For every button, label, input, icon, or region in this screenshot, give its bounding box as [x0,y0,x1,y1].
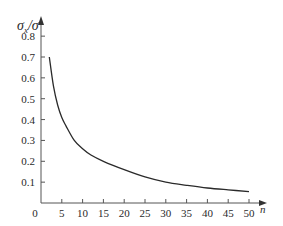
y-tick-label: 0.1 [21,176,35,188]
y-axis-label-rest: /σ [27,18,40,33]
x-tick-label: 5 [59,207,65,219]
data-series-line [49,57,249,192]
x-axis-ticks: 05101520253035404550 [32,199,255,219]
y-tick-label: 0.2 [21,155,35,167]
x-tick-label: 0 [32,207,38,219]
y-tick-label: 0.6 [21,72,35,84]
x-tick-label: 15 [98,207,110,219]
x-axis-label: n [260,203,266,215]
chart: 05101520253035404550 0.10.20.30.40.50.60… [0,0,283,226]
x-tick-label: 35 [181,207,193,219]
x-tick-label: 40 [202,207,214,219]
y-tick-label: 0.5 [21,93,35,105]
y-tick-label: 0.4 [21,114,35,126]
axes [38,16,267,206]
x-tick-label: 10 [77,207,89,219]
x-tick-label: 45 [223,207,235,219]
x-tick-label: 30 [160,207,172,219]
x-tick-label: 50 [244,207,256,219]
y-axis-arrow-icon [38,16,44,25]
x-tick-label: 25 [140,207,152,219]
x-tick-label: 20 [119,207,131,219]
y-tick-label: 0.3 [21,134,35,146]
y-tick-label: 0.7 [21,51,35,63]
y-axis-label: σx/σ [17,18,40,35]
